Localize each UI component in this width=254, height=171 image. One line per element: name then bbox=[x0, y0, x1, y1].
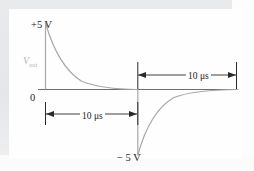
figure-panel: +5 V 0 − 5 V Vout 10 μs 10 μs bbox=[9, 9, 242, 159]
signal-name-subscript: out bbox=[29, 61, 37, 68]
peak-negative-label: − 5 V bbox=[117, 153, 141, 164]
peak-positive-label: +5 V bbox=[31, 20, 52, 31]
zero-level-label: 0 bbox=[30, 93, 35, 104]
lower-dimension-label: 10 μs bbox=[80, 112, 105, 122]
upper-dimension-arrowhead-left bbox=[138, 72, 146, 78]
upper-dimension-arrowhead-right bbox=[228, 72, 236, 78]
upper-dimension-label: 10 μs bbox=[186, 72, 211, 82]
waveform-chart bbox=[9, 9, 242, 159]
figure-screenshot: +5 V 0 − 5 V Vout 10 μs 10 μs bbox=[0, 0, 254, 171]
lower-dimension-arrowhead-left bbox=[46, 111, 54, 117]
negative-recovery-curve bbox=[138, 90, 238, 156]
signal-name-label: Vout bbox=[23, 56, 37, 69]
positive-decay-curve bbox=[46, 23, 138, 90]
lower-dimension-arrowhead-right bbox=[129, 111, 137, 117]
